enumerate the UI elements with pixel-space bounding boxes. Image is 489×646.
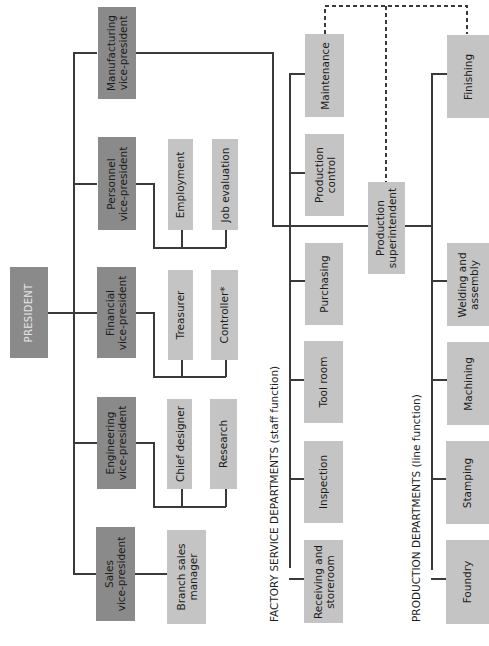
foundry-box: Foundry — [446, 540, 489, 624]
production-group-label: PRODUCTION DEPARTMENTS (line function) — [410, 394, 422, 622]
machining-box: Machining — [447, 342, 489, 425]
box-label: Receiving and storeroom — [312, 545, 336, 619]
box-label: Financial vice-president — [105, 275, 129, 350]
connector-line — [153, 442, 155, 508]
box-label: Welding and assembly — [456, 252, 480, 317]
connector-line — [153, 376, 226, 378]
controller-box: Controller* — [211, 270, 238, 360]
box-label: Treasurer — [175, 291, 187, 340]
box-label: Controller* — [219, 287, 231, 344]
connector-line — [181, 360, 183, 377]
box-label: Research — [218, 420, 230, 468]
box-label: Job evaluation — [219, 147, 231, 222]
treasurer-box: Treasurer — [168, 270, 193, 360]
box-label: Foundry — [461, 561, 473, 604]
box-label: Tool room — [318, 357, 330, 408]
box-label: Machining — [462, 357, 474, 411]
financial-vp-box: Financial vice-president — [97, 267, 136, 358]
connector-line — [135, 573, 168, 575]
purchasing-box: Purchasing — [305, 243, 343, 325]
box-label: Maintenance — [319, 42, 331, 110]
stamping-box: Stamping — [446, 441, 489, 524]
box-label: Personnel vice-president — [105, 146, 129, 221]
personnel-vp-box: Personnel vice-president — [98, 137, 136, 230]
box-label: Inspection — [318, 455, 330, 509]
connector-line — [153, 312, 155, 377]
connector-line — [153, 183, 155, 248]
box-label: Branch sales manager — [175, 543, 199, 610]
branch-sales-manager-box: Branch sales manager — [167, 530, 206, 624]
box-label: Employment — [175, 151, 187, 218]
president-box: PRESIDENT — [10, 267, 48, 358]
box-label: PRESIDENT — [23, 283, 35, 342]
box-label: Purchasing — [318, 255, 330, 312]
box-label: Finishing — [462, 53, 474, 99]
connector-line — [225, 360, 227, 377]
employment-box: Employment — [168, 139, 193, 230]
receiving-storeroom-box: Receiving and storeroom — [304, 540, 343, 623]
staff-group-label: FACTORY SERVICE DEPARTMENTS (staff funct… — [268, 366, 280, 622]
connector-line — [136, 312, 154, 314]
production-superintendent-box: Production superintendent — [368, 182, 405, 274]
connector-line — [153, 506, 226, 508]
maintenance-box: Maintenance — [305, 34, 344, 117]
job-evaluation-box: Job evaluation — [212, 139, 238, 230]
connector-line — [136, 183, 154, 185]
box-label: Chief designer — [174, 406, 186, 482]
box-label: Sales vice-president — [104, 537, 128, 612]
box-label: Engineering vice-president — [105, 406, 129, 481]
connector-line — [181, 230, 183, 248]
research-box: Research — [210, 399, 237, 489]
production-control-box: Production control — [305, 134, 344, 216]
connector-line — [153, 247, 226, 249]
connector-line — [136, 442, 154, 444]
engineering-vp-box: Engineering vice-president — [97, 397, 136, 489]
connector-line — [225, 230, 227, 248]
connector-line — [181, 489, 183, 507]
box-label: Production control — [313, 147, 337, 203]
box-label: Stamping — [462, 457, 474, 507]
box-label: Manufacturing vice-president — [105, 15, 129, 91]
sales-vp-box: Sales vice-president — [96, 527, 135, 621]
chief-designer-box: Chief designer — [167, 399, 192, 489]
connector-line — [225, 489, 227, 507]
manufacturing-vp-box: Manufacturing vice-president — [98, 7, 136, 99]
inspection-box: Inspection — [304, 441, 343, 523]
welding-assembly-box: Welding and assembly — [447, 243, 489, 326]
box-label: Production superintendent — [375, 188, 399, 268]
finishing-box: Finishing — [447, 35, 489, 118]
tool-room-box: Tool room — [304, 341, 343, 423]
